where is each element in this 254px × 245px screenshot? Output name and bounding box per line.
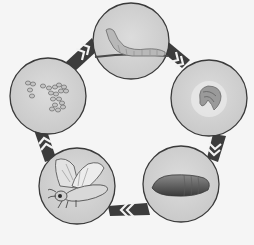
stage-larva: [93, 3, 169, 79]
stage-adult: [39, 148, 115, 224]
life-cycle-diagram: Silkworm life cycle: [0, 0, 254, 245]
stage-cocoon: [171, 60, 247, 136]
arrow-cocoon-to-pupa: [207, 134, 226, 162]
cocoon-icon: [191, 81, 227, 117]
stage-pupa: [143, 146, 219, 222]
stage-eggs: [10, 58, 86, 134]
arrow-pupa-to-adult: [108, 203, 150, 217]
pupa-icon: [152, 175, 209, 196]
diagram-canvas: [0, 0, 254, 245]
